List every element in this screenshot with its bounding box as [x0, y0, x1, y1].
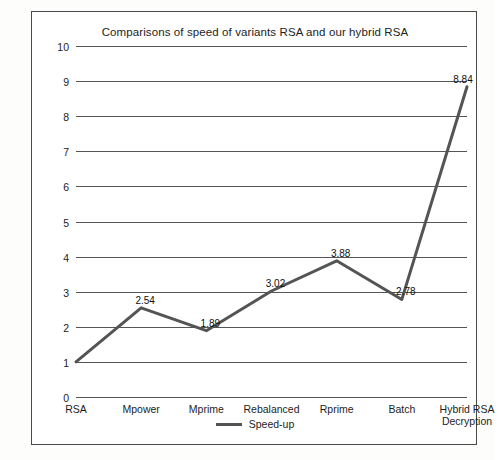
x-axis-tick-label: Mprime — [189, 403, 224, 415]
data-point-label: 8.84 — [453, 74, 472, 85]
series-polyline — [76, 87, 467, 362]
data-point-label: 2.54 — [135, 295, 154, 306]
gridline-y-1: 1 — [76, 362, 467, 363]
chart-title: Comparisons of speed of variants RSA and… — [32, 26, 478, 38]
gridline-y-2: 2 — [76, 327, 467, 328]
y-axis-tick-label: 1 — [63, 357, 69, 369]
gridline-y-8: 8 — [76, 116, 467, 117]
y-axis-tick-label: 7 — [63, 146, 69, 158]
y-axis-tick-label: 4 — [63, 252, 69, 264]
legend-line-swatch — [216, 423, 242, 426]
y-axis-tick-label: 2 — [63, 322, 69, 334]
y-axis-tick-label: 3 — [63, 287, 69, 299]
chart-legend: Speed-up — [32, 418, 478, 430]
data-point-label: 3.88 — [331, 248, 350, 259]
chart-frame: Comparisons of speed of variants RSA and… — [31, 11, 477, 445]
gridline-y-0: 0 — [76, 397, 467, 398]
y-axis-tick-label: 8 — [63, 111, 69, 123]
y-axis-tick-label: 9 — [63, 76, 69, 88]
gridline-y-10: 10 — [76, 46, 467, 47]
x-axis-tick-label: Batch — [388, 403, 415, 415]
data-point-label: 1.89 — [201, 318, 220, 329]
y-axis-tick-label: 6 — [63, 181, 69, 193]
x-axis-tick-label: Mpower — [122, 403, 159, 415]
x-axis-tick-label: Rprime — [320, 403, 354, 415]
gridline-y-7: 7 — [76, 151, 467, 152]
data-point-label: 3.02 — [266, 278, 285, 289]
plot-area: 0123456789102.541.893.023.882.788.84RSAM… — [76, 46, 467, 397]
gridline-y-9: 9 — [76, 81, 467, 82]
x-axis-tick-label: RSA — [65, 403, 87, 415]
data-point-label: 2.78 — [396, 286, 415, 297]
legend-label-speed-up: Speed-up — [249, 418, 295, 430]
y-axis-tick-label: 5 — [63, 217, 69, 229]
y-axis-tick-label: 10 — [57, 41, 69, 53]
gridline-y-6: 6 — [76, 186, 467, 187]
gridline-y-5: 5 — [76, 222, 467, 223]
x-axis-tick-label: Rebalanced — [243, 403, 299, 415]
gridline-y-4: 4 — [76, 257, 467, 258]
